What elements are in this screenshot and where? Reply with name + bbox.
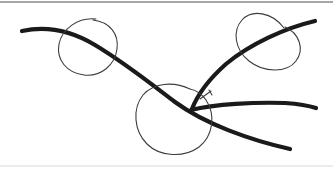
- sketch-canvas: [0, 0, 333, 169]
- sketch-drawing-surface: [0, 0, 333, 169]
